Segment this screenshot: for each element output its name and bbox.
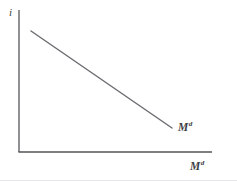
money-demand-curve [31,31,172,128]
x-axis-label: Md [190,161,204,173]
x-axis-label-base: M [190,160,200,172]
y-axis-label: i [9,7,12,18]
money-demand-figure: i Md Md [0,0,237,185]
curve-label-base: M [178,121,188,133]
curve-label-md: Md [178,122,192,134]
y-axis-label-text: i [9,6,12,18]
bottom-divider [0,180,237,181]
x-axis-label-superscript: d [201,159,205,167]
curve-label-superscript: d [189,120,193,128]
plot-area [0,0,237,185]
